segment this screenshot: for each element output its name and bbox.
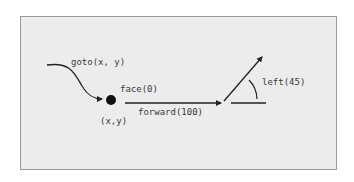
forward-label: forward(100) [138, 108, 203, 117]
position-label: (x,y) [100, 117, 127, 126]
turtle-position-dot [106, 95, 116, 105]
turtle-diagram [0, 0, 354, 182]
face-label: face(0) [120, 85, 158, 94]
goto-curve-arrow [47, 64, 102, 99]
angle-arc [249, 80, 257, 99]
left-label: left(45) [262, 78, 305, 87]
goto-label: goto(x, y) [71, 58, 125, 67]
